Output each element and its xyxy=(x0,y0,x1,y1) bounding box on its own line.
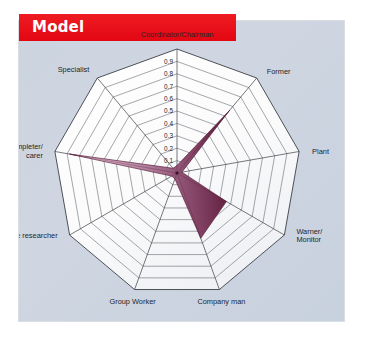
radar-axis-label: Specialist xyxy=(58,65,90,74)
radar-tick-label: 0.6 xyxy=(164,95,173,102)
radar-center-point xyxy=(175,171,178,174)
radar-axis-label: Group Worker xyxy=(109,297,156,306)
radar-axis-label: Former xyxy=(267,67,291,76)
radar-axis-label: Plant xyxy=(312,147,329,156)
radar-axis-label: Completer/carer xyxy=(19,142,44,159)
radar-axis-label: Company man xyxy=(197,297,245,306)
radar-chart: 0.10.20.30.40.50.60.70.80.9 Coordinator/… xyxy=(19,21,344,321)
radar-tick-label: 0.2 xyxy=(164,145,173,152)
radar-tick-label: 0.1 xyxy=(164,157,173,164)
radar-axis-label: Coordinator/Chairman xyxy=(141,30,214,39)
figure-root: Model 0.10.20.30.40.50.60.70.80.9 Coordi… xyxy=(0,0,365,349)
radar-tick-label: 0.7 xyxy=(164,83,173,90)
radar-tick-label: 0.4 xyxy=(164,120,173,127)
radar-axis-label: Source researcher xyxy=(19,231,58,240)
radar-tick-label: 0.3 xyxy=(164,132,173,139)
radar-axis-label: Warner/Monitor xyxy=(296,227,323,244)
radar-tick-label: 0.5 xyxy=(164,107,173,114)
radar-tick-label: 0.8 xyxy=(164,70,173,77)
radar-tick-label: 0.9 xyxy=(164,58,173,65)
radar-tick-labels: 0.10.20.30.40.50.60.70.80.9 xyxy=(164,58,173,164)
